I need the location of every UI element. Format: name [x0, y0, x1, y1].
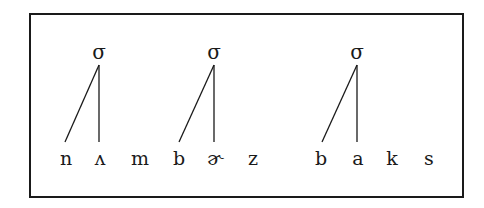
- line-s1-onset: [65, 65, 99, 142]
- segment-m: m: [131, 149, 149, 168]
- segment-n: n: [60, 149, 72, 168]
- segment-z: z: [248, 149, 258, 168]
- syllable-node-2: σ: [207, 42, 221, 62]
- segment-wedge: ʌ: [95, 149, 106, 168]
- segment-b-1: b: [173, 149, 185, 168]
- syllable-node-1: σ: [92, 42, 106, 62]
- line-s3-onset: [322, 65, 357, 142]
- segment-schwar: ɚ: [207, 149, 223, 168]
- association-lines: [0, 0, 484, 208]
- segment-a: a: [352, 149, 363, 168]
- segment-s: s: [424, 149, 434, 168]
- syllable-node-3: σ: [350, 42, 364, 62]
- segment-b-2: b: [315, 149, 327, 168]
- line-s2-onset: [179, 65, 214, 142]
- segment-k: k: [386, 149, 398, 168]
